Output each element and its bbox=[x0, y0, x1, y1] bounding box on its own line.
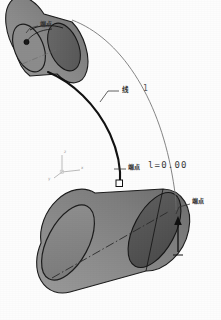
endpoint-dot-marker[interactable] bbox=[24, 39, 29, 44]
cable-curve-thin[interactable] bbox=[72, 20, 176, 210]
endpoint-square-marker[interactable] bbox=[116, 180, 123, 187]
leader-line-curve bbox=[100, 91, 119, 102]
lower-cylinder[interactable] bbox=[31, 184, 192, 293]
coordinate-triad bbox=[54, 155, 80, 178]
cable-curve-bold[interactable] bbox=[48, 72, 120, 184]
scene-graphics bbox=[0, 0, 221, 320]
upper-cylinder[interactable] bbox=[6, 0, 88, 83]
cad-3d-viewport[interactable]: 端点 线 1 端点 l=0.00 端点 z x y bbox=[0, 0, 221, 320]
